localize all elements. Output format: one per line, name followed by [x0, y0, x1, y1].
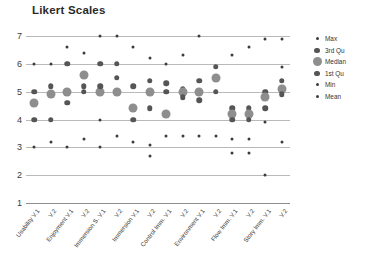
data-point [63, 87, 72, 96]
x-axis-label: V.2 [47, 207, 58, 218]
data-point [165, 62, 168, 65]
legend-item-median: Median [311, 56, 365, 68]
data-point [162, 109, 171, 118]
data-point [214, 135, 217, 138]
data-point [231, 151, 234, 154]
x-axis-label: V.2 [146, 207, 157, 218]
chart-title: Likert Scales [32, 4, 106, 16]
data-point [213, 64, 219, 70]
legend-label: Median [325, 58, 346, 65]
data-point [148, 143, 151, 146]
y-tick-3: 3 [4, 142, 22, 152]
data-point [82, 137, 85, 140]
x-label-wrap: Story Imm. V.1 [268, 206, 269, 214]
x-axis-label: Control Imm. V.1 [139, 207, 173, 247]
data-point [66, 46, 69, 49]
x-label-wrap: Environment V.1 [202, 206, 203, 214]
data-point [46, 90, 55, 99]
x-label-wrap: Flow Imm. V.1 [235, 206, 236, 214]
data-point [65, 100, 71, 106]
x-label-wrap: Control Imm. V.1 [169, 206, 170, 214]
legend-item-min: Min [311, 79, 365, 91]
x-label-wrap: Usability V.1 [37, 206, 38, 214]
y-tick-1: 1 [4, 198, 22, 208]
data-point [263, 106, 269, 112]
data-point [247, 46, 250, 49]
x-label-wrap: V.2 [153, 206, 154, 214]
data-point [33, 62, 36, 65]
data-point [65, 61, 71, 67]
data-point [164, 81, 170, 87]
y-tick-2: 2 [4, 170, 22, 180]
data-point [48, 117, 54, 123]
data-point [264, 121, 267, 124]
data-point [198, 135, 201, 138]
data-point [246, 117, 252, 123]
data-point [131, 83, 137, 89]
data-point [115, 35, 118, 38]
data-point [247, 137, 250, 140]
data-point [114, 61, 120, 67]
data-point [82, 51, 85, 54]
data-point [131, 117, 137, 123]
data-point [30, 98, 39, 107]
x-label-wrap: V.2 [87, 206, 88, 214]
legend-marker-icon [311, 79, 323, 91]
legend-item-1st-qu: 1st Qu [311, 68, 365, 80]
data-point [213, 89, 219, 95]
data-point [197, 78, 203, 84]
data-point [99, 118, 102, 121]
data-point [261, 93, 270, 102]
x-axis-label: V.2 [113, 207, 124, 218]
plot-area [26, 36, 290, 203]
x-label-wrap: V.2 [54, 206, 55, 214]
data-point [81, 89, 87, 95]
data-point [147, 78, 153, 84]
data-point [280, 37, 283, 40]
data-point [49, 62, 52, 65]
data-point [145, 87, 154, 96]
data-point [247, 151, 250, 154]
legend-marker-icon [311, 33, 323, 45]
x-label-wrap: V.2 [285, 206, 286, 214]
data-point [147, 106, 153, 112]
x-axis-label: V.2 [245, 207, 256, 218]
data-point [49, 140, 52, 143]
data-point [280, 140, 283, 143]
data-point [195, 87, 204, 96]
data-point [129, 104, 138, 113]
gridline-7 [26, 36, 290, 37]
data-point [132, 140, 135, 143]
gridline-2 [26, 175, 290, 176]
legend-item-3rd-qu: 3rd Qu [311, 45, 365, 57]
y-tick-4: 4 [4, 115, 22, 125]
legend-marker-icon [311, 68, 323, 80]
data-point [279, 78, 285, 84]
data-point [98, 83, 104, 89]
x-label-wrap: V.2 [120, 206, 121, 214]
x-label-wrap: Immersion S. V.1 [103, 206, 104, 214]
x-axis-label: V.2 [212, 207, 223, 218]
data-point [180, 94, 186, 100]
data-point [197, 97, 203, 103]
x-label-wrap: Enjoyment V.1 [70, 206, 71, 214]
legend-label: 1st Qu [325, 70, 344, 77]
data-point [79, 70, 88, 79]
x-label-wrap: V.2 [186, 206, 187, 214]
x-axis-label: V.2 [278, 207, 289, 218]
data-point [264, 174, 267, 177]
legend-item-max: Max [311, 33, 365, 45]
data-point [279, 92, 285, 98]
data-point [181, 135, 184, 138]
data-point [264, 37, 267, 40]
y-tick-5: 5 [4, 87, 22, 97]
data-point [148, 57, 151, 60]
data-point [98, 61, 104, 67]
data-point [231, 54, 234, 57]
x-axis-label: V.2 [179, 207, 190, 218]
data-point [99, 146, 102, 149]
data-point [198, 35, 201, 38]
data-point [132, 46, 135, 49]
x-axis-line [26, 203, 290, 204]
legend-label: Max [325, 35, 337, 42]
